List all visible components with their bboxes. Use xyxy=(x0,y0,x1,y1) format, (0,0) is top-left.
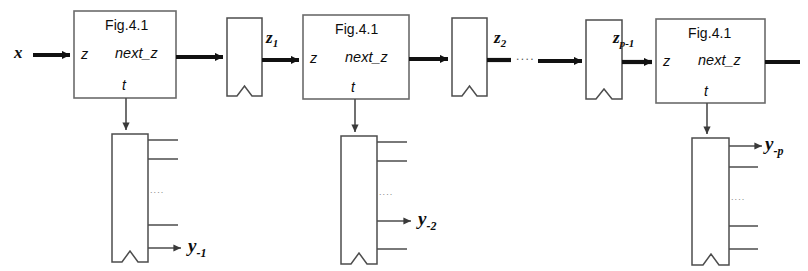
signal-state-z1-base: z xyxy=(266,28,273,47)
stage-p-caption: Fig.4.1 xyxy=(688,26,732,40)
stage-p-port-in: z xyxy=(663,54,670,69)
time-output-group xyxy=(126,98,707,134)
signal-state-z1: z1 xyxy=(266,29,278,46)
signal-output-y-p: y-p xyxy=(765,134,783,153)
state-reg-1-body xyxy=(227,18,262,96)
output-reg-1-ellipsis: .... xyxy=(150,186,164,195)
output-reg-p-body xyxy=(692,138,729,265)
signal-input-x-base: x xyxy=(14,43,23,62)
signal-output-y-1: y-1 xyxy=(188,236,206,255)
signal-input-x: x xyxy=(14,44,23,61)
signal-state-z2-sub: 2 xyxy=(501,37,507,49)
signal-state-z2: z2 xyxy=(494,29,506,46)
output-reg-2-body xyxy=(341,136,377,264)
signal-state-z1-sub: 1 xyxy=(273,37,279,49)
signal-state-zp-1-base: z xyxy=(613,28,620,47)
stage-1-port-out: next_z xyxy=(115,46,158,61)
stage-p-port-time: t xyxy=(704,84,708,98)
stage-2-caption: Fig.4.1 xyxy=(335,22,379,36)
stage-1-port-time: t xyxy=(122,78,126,92)
chain-ellipsis: .... xyxy=(516,50,535,62)
output-reg-2-ellipsis: .... xyxy=(379,188,393,197)
diagram-vector-layer xyxy=(0,0,808,271)
state-reg-2-body xyxy=(452,18,487,96)
stage-2-port-in: z xyxy=(310,51,317,66)
signal-output-y-2-sub: -2 xyxy=(426,219,436,233)
diagram-canvas: Fig.4.1 z next_z t Fig.4.1 z next_z t Fi… xyxy=(0,0,808,271)
stage-p-port-out: next_z xyxy=(698,53,741,68)
signal-state-zp-1: zp-1 xyxy=(613,29,634,46)
stage-1-caption: Fig.4.1 xyxy=(105,18,149,32)
signal-state-z2-base: z xyxy=(494,28,501,47)
signal-output-y-p-sub: -p xyxy=(773,144,783,158)
signal-output-y-2: y-2 xyxy=(418,209,436,228)
stage-2-port-time: t xyxy=(351,80,355,94)
output-reg-p-ellipsis: .... xyxy=(731,193,745,202)
signal-state-zp-1-sub: p-1 xyxy=(620,37,635,49)
stage-1-port-in: z xyxy=(81,47,88,62)
stage-2-port-out: next_z xyxy=(345,50,388,65)
output-reg-1-body xyxy=(112,134,148,262)
signal-output-y-1-sub: -1 xyxy=(196,246,206,260)
